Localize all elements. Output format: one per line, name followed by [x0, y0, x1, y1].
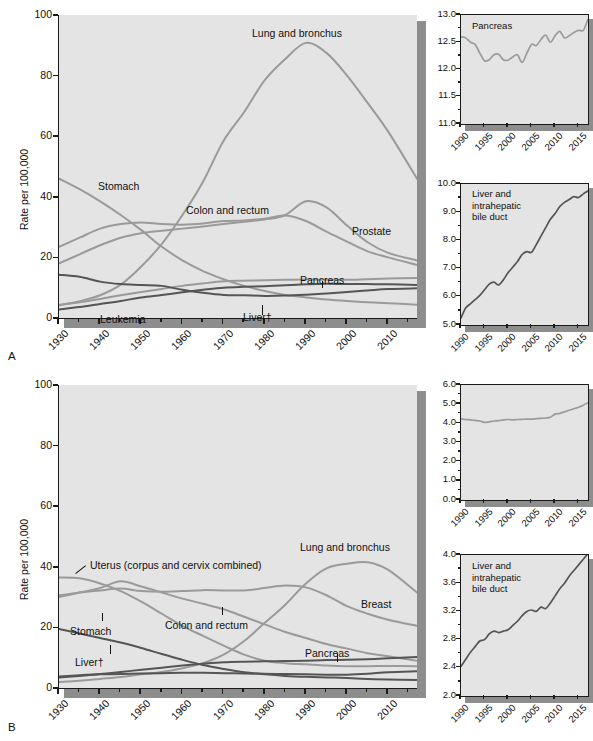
inset-y-tick-label: 2.8: [425, 632, 456, 643]
leader-line: [322, 281, 323, 288]
x-tick-mark: [98, 688, 100, 694]
inset-x-tick-mark: [530, 123, 531, 127]
x-tick-mark-minor: [242, 688, 243, 692]
inset-x-tick-mark: [459, 123, 460, 127]
inset-x-tick-mark: [553, 695, 554, 699]
inset-y-tick-label: 4.0: [425, 416, 456, 427]
x-tick-mark-minor: [325, 318, 326, 322]
inset-x-tick-mark: [530, 324, 531, 328]
x-tick-label: 1960: [166, 697, 194, 725]
series-label-prostate: Prostate: [352, 225, 391, 237]
series-label-colon-and-rectum: Colon and rectum: [186, 204, 269, 216]
x-tick-mark-minor: [78, 688, 79, 692]
x-tick-label: 1990: [289, 327, 317, 355]
inset-liver-male-title: Liver andintrahepaticbile duct: [472, 188, 521, 223]
inset-y-tick-label: 13.0: [425, 8, 456, 19]
inset-x-tick-label: 2010: [539, 702, 565, 728]
y-tick-label: 20: [26, 250, 52, 262]
inset-x-tick-mark: [459, 499, 460, 503]
inset-uterine-plot: [460, 384, 589, 501]
panel-a-lines: [59, 15, 417, 318]
series-label-stomach: Stomach: [70, 625, 111, 637]
inset-y-tick-label: 7.0: [425, 261, 456, 272]
x-tick-mark: [222, 688, 224, 694]
x-tick-mark: [57, 318, 59, 324]
inset-x-tick-label: 2005: [515, 702, 541, 728]
x-tick-label: 1980: [248, 327, 276, 355]
x-tick-label: 1980: [248, 697, 276, 725]
inset-x-tick-mark: [577, 123, 578, 127]
inset-y-tick-label: 2.0: [425, 454, 456, 465]
x-tick-label: 1950: [124, 697, 152, 725]
cancer-mortality-figure: Rate per 100,000 020406080100 1930194019…: [0, 0, 593, 741]
x-tick-mark-minor: [160, 688, 161, 692]
y-tick-label: 0: [26, 311, 52, 323]
x-tick-mark-minor: [407, 318, 408, 322]
inset-x-tick-mark: [577, 324, 578, 328]
y-tick-label: 80: [26, 69, 52, 81]
inset-x-tick-label: 1990: [445, 702, 471, 728]
x-tick-label: 1940: [83, 697, 111, 725]
x-tick-label: 1970: [207, 697, 235, 725]
inset-y-tick-label: 12.5: [425, 35, 456, 46]
inset-x-tick-label: 2010: [539, 506, 565, 532]
x-tick-mark-minor: [78, 318, 79, 322]
line-lung-and-bronchus: [59, 43, 417, 306]
series-label-breast: Breast: [361, 598, 391, 610]
leader-line: [222, 607, 223, 615]
inset-y-tick-label: 8.0: [425, 233, 456, 244]
inset-liver-female-title: Liver andintrahepaticbile duct: [472, 560, 521, 595]
panel-b: Rate per 100,000 020406080100 1930194019…: [0, 370, 593, 741]
x-tick-label: 1950: [124, 327, 152, 355]
x-tick-label: 1930: [42, 697, 70, 725]
panel-b-lines: [59, 385, 417, 688]
inset-x-tick-mark: [553, 123, 554, 127]
inset-x-tick-label: 2005: [515, 130, 541, 156]
x-tick-mark: [263, 688, 265, 694]
leader-line: [110, 645, 111, 654]
inset-x-tick-label: 2010: [539, 130, 565, 156]
inset-y-tick-label: 2.0: [425, 689, 456, 700]
series-label-liver: Liver†: [243, 311, 272, 323]
inset-x-tick-mark: [506, 695, 507, 699]
inset-x-tick-label: 1995: [468, 702, 494, 728]
inset-y-tick-label: 9.0: [425, 205, 456, 216]
inset-y-tick-label: 6.0: [425, 289, 456, 300]
panel-b-letter: B: [8, 721, 16, 733]
inset-y-tick-label: 4.0: [425, 548, 456, 559]
x-tick-label: 2000: [330, 697, 358, 725]
x-tick-label: 1960: [166, 327, 194, 355]
x-tick-mark-minor: [201, 688, 202, 692]
y-tick-label: 80: [26, 439, 52, 451]
inset-x-tick-mark: [530, 695, 531, 699]
inset-x-tick-label: 1990: [445, 331, 471, 357]
series-label-lung-and-bronchus: Lung and bronchus: [300, 541, 390, 553]
line-liver-and-intrahepatic-bile-duct: [59, 275, 417, 296]
inset-x-tick-mark: [577, 695, 578, 699]
inset-x-tick-mark: [483, 695, 484, 699]
x-tick-mark-minor: [366, 688, 367, 692]
y-tick-label: 40: [26, 560, 52, 572]
series-label-uterus-corpus-and-cervix-combined: Uterus (corpus and cervix combined): [90, 559, 262, 571]
inset-x-tick-mark: [459, 324, 460, 328]
y-tick-label: 60: [26, 129, 52, 141]
series-label-colon-and-rectum: Colon and rectum: [165, 619, 248, 631]
line-uterine-corpus: [461, 403, 588, 423]
inset-x-tick-mark: [506, 123, 507, 127]
panel-b-inset-liver: 2.02.42.83.23.64.0 Liver andintrahepatic…: [425, 540, 593, 740]
inset-x-tick-label: 2010: [539, 331, 565, 357]
inset-x-tick-mark: [459, 695, 460, 699]
x-tick-mark: [345, 318, 347, 324]
leader-line: [262, 305, 263, 315]
inset-x-tick-label: 2005: [515, 331, 541, 357]
y-tick-label: 40: [26, 190, 52, 202]
x-tick-mark: [304, 688, 306, 694]
x-tick-mark: [181, 688, 183, 694]
panel-b-inset-uterine: 0.01.02.03.04.05.06.0 199019952000200520…: [425, 370, 593, 550]
inset-y-tick-label: 1.0: [425, 473, 456, 484]
inset-y-tick-label: 11.0: [425, 117, 456, 128]
x-tick-mark: [386, 318, 388, 324]
y-tick-label: 20: [26, 620, 52, 632]
y-tick-label: 60: [26, 499, 52, 511]
x-tick-mark: [57, 688, 59, 694]
